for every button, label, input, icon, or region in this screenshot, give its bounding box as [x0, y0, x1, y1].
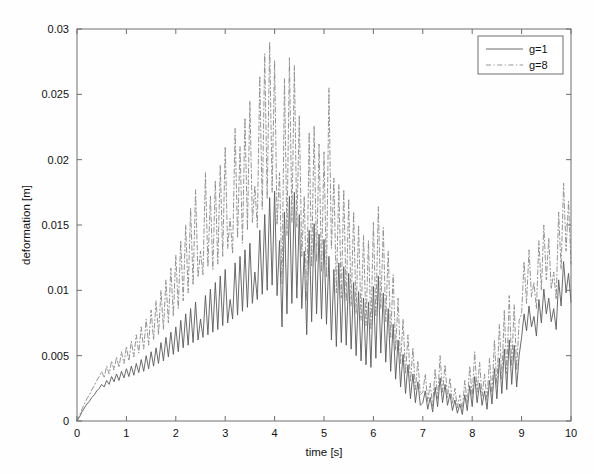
x-tick-label: 9 — [519, 427, 525, 439]
x-tick-label: 10 — [565, 427, 577, 439]
x-tick-label: 2 — [173, 427, 179, 439]
x-axis-title: time [s] — [305, 446, 342, 458]
chart-plot[interactable]: 01234567891000.0050.010.0150.020.0250.03… — [0, 0, 594, 474]
x-tick-label: 5 — [321, 427, 327, 439]
legend-label-g1: g=1 — [529, 43, 548, 55]
x-tick-label: 7 — [420, 427, 426, 439]
y-tick-label: 0.005 — [41, 350, 69, 362]
x-tick-label: 0 — [74, 427, 80, 439]
legend-label-g8: g=8 — [529, 59, 548, 71]
figure-canvas: 01234567891000.0050.010.0150.020.0250.03… — [0, 0, 594, 474]
x-tick-label: 3 — [222, 427, 228, 439]
legend-frame — [478, 36, 563, 74]
chart-legend[interactable]: g=1g=8 — [478, 36, 563, 74]
x-tick-label: 1 — [123, 427, 129, 439]
y-axis-title: deformation [m] — [20, 185, 32, 265]
x-tick-label: 6 — [370, 427, 376, 439]
y-tick-label: 0.015 — [41, 219, 69, 231]
y-tick-label: 0 — [63, 415, 69, 427]
y-tick-label: 0.03 — [48, 23, 69, 35]
x-tick-label: 8 — [469, 427, 475, 439]
y-tick-label: 0.01 — [48, 284, 69, 296]
y-tick-label: 0.025 — [41, 88, 69, 100]
x-tick-label: 4 — [272, 427, 278, 439]
y-tick-label: 0.02 — [48, 154, 69, 166]
